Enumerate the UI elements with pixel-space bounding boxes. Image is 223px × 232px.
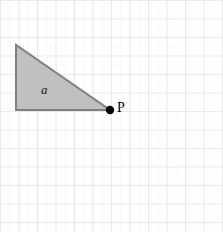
triangle-a [16, 45, 110, 110]
point-p-marker [106, 106, 114, 114]
triangle-area-label: a [41, 83, 48, 96]
point-p-label: P [117, 101, 125, 115]
geometry-figure: a P [0, 0, 223, 232]
triangle-shape-layer [0, 0, 223, 232]
